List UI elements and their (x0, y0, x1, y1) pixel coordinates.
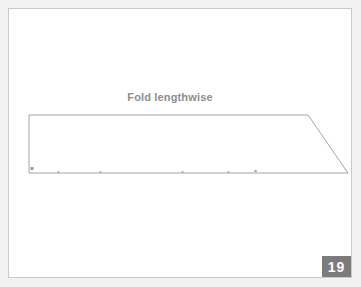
page-number-text: 19 (328, 260, 346, 274)
page-number-badge: 19 (322, 256, 351, 277)
diagram-page: Fold lengthwise 19 (0, 0, 361, 287)
paper-sheet (8, 8, 352, 278)
fold-instruction-label: Fold lengthwise (114, 91, 226, 103)
